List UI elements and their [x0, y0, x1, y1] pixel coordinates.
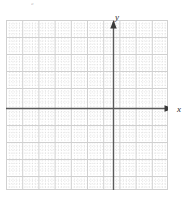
major-gridlines-vertical: [7, 20, 168, 190]
y-axis-label: y: [115, 13, 119, 22]
coordinate-grid-figure: a: [0, 0, 188, 200]
corner-artifact-mark: a: [31, 1, 37, 6]
plot-area: [6, 20, 168, 190]
axes-and-major-gridlines: [6, 20, 168, 190]
x-axis-label: x: [177, 105, 181, 114]
